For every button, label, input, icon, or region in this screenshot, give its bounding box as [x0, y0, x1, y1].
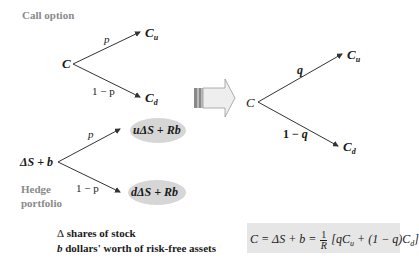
legend-delta-line: Δ shares of stock: [57, 227, 136, 239]
risk-neutral-up-node: Cu: [347, 47, 360, 64]
pricing-formula: C = ΔS + b = 1R [qCu + (1 − q)Cd]: [250, 230, 419, 251]
call-down-probability: 1 − p: [92, 85, 115, 97]
risk-neutral-up-probability: q: [297, 63, 303, 78]
hedge-label-line2: portfolio: [21, 196, 62, 210]
legend-b-line: b dollars' worth of risk-free assets: [57, 242, 216, 254]
hedge-up-probability: p: [88, 128, 94, 140]
risk-neutral-root-node: C: [246, 95, 255, 111]
hedge-down-probability: 1 − p: [76, 182, 99, 194]
call-root-node: C: [62, 56, 71, 72]
call-up-probability: p: [104, 33, 110, 45]
hedge-up-node: uΔS + Rb: [133, 123, 181, 138]
call-down-node: Cd: [145, 90, 158, 107]
call-option-label: Call option: [22, 9, 74, 21]
risk-neutral-down-probability: 1 − q: [283, 127, 308, 142]
hedge-root-node: ΔS + b: [20, 155, 53, 170]
hedge-label-line1: Hedge: [21, 182, 62, 196]
transition-arrow-icon: [194, 79, 235, 117]
risk-neutral-down-node: Cd: [343, 139, 356, 156]
hedge-portfolio-label: Hedge portfolio: [21, 182, 62, 210]
hedge-down-node: dΔS + Rb: [131, 185, 178, 200]
call-up-node: Cu: [145, 25, 158, 42]
